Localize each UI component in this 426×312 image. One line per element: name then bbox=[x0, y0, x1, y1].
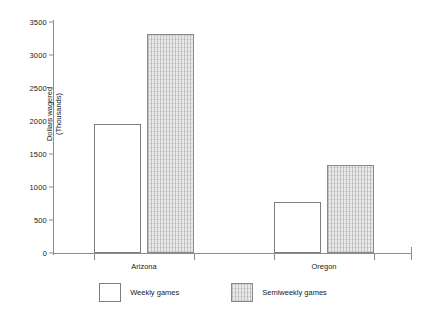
legend-swatch-icon bbox=[231, 283, 253, 302]
y-axis-tick-label: 500 bbox=[0, 216, 47, 225]
legend-item-weekly-games[interactable]: Weekly games bbox=[99, 283, 179, 302]
plot-area bbox=[53, 22, 412, 253]
y-axis-tick-label: 1000 bbox=[0, 183, 47, 192]
x-axis-tick-mark bbox=[94, 253, 95, 260]
y-axis-tick-label: 2000 bbox=[0, 117, 47, 126]
x-axis-category-label-arizona: Arizona bbox=[131, 262, 156, 271]
bar-oregon-semiweekly-games bbox=[327, 165, 374, 253]
bar-chart: Dollars wagered (Thousands) 050010001500… bbox=[0, 0, 426, 312]
x-axis-tick-mark bbox=[194, 253, 195, 260]
x-axis-tick-mark bbox=[274, 253, 275, 260]
y-axis-tick-label: 2500 bbox=[0, 84, 47, 93]
bar-oregon-weekly-games bbox=[274, 202, 321, 253]
legend-label: Semiweekly games bbox=[262, 288, 327, 297]
y-axis-tick-label: 0 bbox=[0, 249, 47, 258]
bar-arizona-semiweekly-games bbox=[147, 34, 194, 253]
y-axis-tick-label: 1500 bbox=[0, 150, 47, 159]
y-axis-tick-label: 3500 bbox=[0, 18, 47, 27]
chart-legend: Weekly gamesSemiweekly games bbox=[0, 283, 426, 302]
y-axis-tick-label: 3000 bbox=[0, 51, 47, 60]
bar-arizona-weekly-games bbox=[94, 124, 141, 253]
x-axis-line bbox=[53, 253, 412, 254]
legend-item-semiweekly-games[interactable]: Semiweekly games bbox=[231, 283, 327, 302]
x-axis-category-label-oregon: Oregon bbox=[311, 262, 336, 271]
x-axis-tick-mark bbox=[374, 253, 375, 260]
legend-label: Weekly games bbox=[130, 288, 179, 297]
legend-swatch-icon bbox=[99, 283, 121, 302]
